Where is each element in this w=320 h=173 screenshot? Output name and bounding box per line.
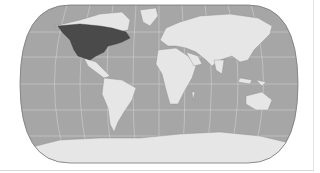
world-map xyxy=(0,0,320,173)
